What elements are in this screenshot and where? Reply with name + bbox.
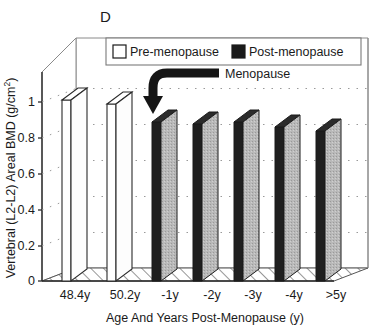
x-tick-minus3y: -3y — [244, 288, 262, 302]
chart-svg: Pre-menopause Post-menopause Menopause D… — [0, 0, 374, 330]
y-tick-0p4: 0.4 — [18, 203, 35, 217]
legend-label-post: Post-menopause — [249, 45, 344, 59]
x-tick-minus4y: -4y — [285, 288, 303, 302]
x-tick-50p2y: 50.2y — [110, 288, 141, 302]
bar-over5y[interactable] — [316, 119, 341, 281]
x-tick-48p4y: 48.4y — [60, 288, 91, 302]
panel-label: D — [100, 8, 111, 25]
menopause-annotation-label: Menopause — [225, 67, 290, 81]
y-tick-0: 0 — [28, 274, 35, 288]
white-square-swatch — [113, 45, 126, 58]
x-tick-minus2y: -2y — [203, 288, 221, 302]
y-tick-0p2: 0.2 — [18, 239, 35, 253]
bar-minus1y[interactable] — [152, 110, 177, 281]
chart-figure: Pre-menopause Post-menopause Menopause D… — [0, 0, 374, 330]
y-tick-0p8: 0.8 — [18, 131, 35, 145]
legend-label-pre: Pre-menopause — [130, 45, 219, 59]
bar-48p4y[interactable] — [62, 88, 87, 281]
bar-minus3y[interactable] — [234, 110, 259, 281]
dark-square-swatch — [232, 45, 245, 58]
legend: Pre-menopause Post-menopause — [106, 38, 361, 65]
x-tick-over5y: >5y — [326, 288, 347, 302]
bar-minus4y[interactable] — [275, 115, 300, 281]
x-tick-minus1y: -1y — [161, 288, 179, 302]
y-axis-title-tail: ) — [4, 78, 18, 82]
y-tick-0p6: 0.6 — [18, 167, 35, 181]
y-axis-title-main: Vertebral (L2-L2) Areal BMD (g/cm — [4, 87, 18, 279]
x-axis-title: Age And Years Post-Menopause (y) — [106, 311, 304, 325]
y-tick-1: 1 — [28, 95, 35, 109]
svg-text:Vertebral (L2-L2) Areal BMD (g: Vertebral (L2-L2) Areal BMD (g/cm2) — [2, 78, 18, 279]
y-axis-title: Vertebral (L2-L2) Areal BMD (g/cm2) — [2, 78, 18, 279]
bar-minus2y[interactable] — [193, 112, 218, 281]
bar-50p2y[interactable] — [107, 92, 132, 281]
